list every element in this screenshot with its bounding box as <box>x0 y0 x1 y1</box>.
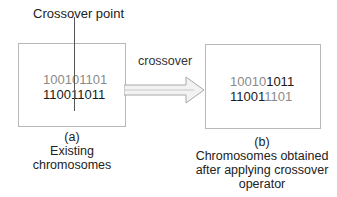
child-chromosome-1: 100101011 <box>230 74 294 90</box>
caption-b-line1: Chromosomes obtained <box>188 149 336 163</box>
parent-chromosome-1: 100101101 <box>43 72 107 88</box>
child2-head: 11001 <box>230 89 264 104</box>
child2-tail: 1101 <box>264 89 292 104</box>
caption-a-line2: chromosomes <box>18 158 126 172</box>
parent2-tail: 1011 <box>77 87 105 102</box>
caption-b: (b) Chromosomes obtained after applying … <box>188 135 336 191</box>
crossover-point-label: Crossover point <box>33 6 124 21</box>
caption-a-line1: Existing <box>18 144 126 158</box>
child1-tail: 1011 <box>266 74 294 89</box>
caption-a: (a) Existing chromosomes <box>18 130 126 172</box>
caption-b-tag: (b) <box>188 135 336 149</box>
crossover-arrow-icon <box>124 75 208 105</box>
caption-a-tag: (a) <box>18 130 126 144</box>
parent1-tail: 1101 <box>79 72 107 87</box>
crossover-point-line <box>74 17 75 111</box>
parent2-head: 11001 <box>43 87 77 102</box>
caption-b-line2: after applying crossover <box>188 163 336 177</box>
child1-head: 10010 <box>230 74 266 89</box>
caption-b-line3: operator <box>188 177 336 191</box>
arrow-label: crossover <box>138 54 192 68</box>
child-chromosome-2: 110011101 <box>230 89 292 105</box>
